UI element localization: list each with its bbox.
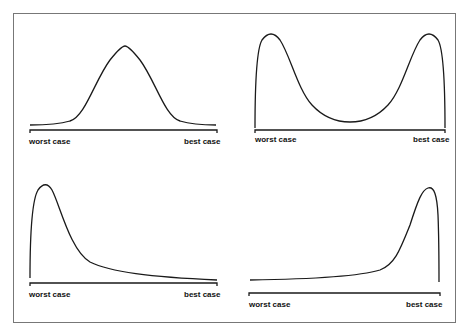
panel-bimodal-curve [255, 34, 445, 133]
axis-bracket [30, 283, 217, 286]
label-best-case: best case [184, 137, 220, 147]
panel-left-skewed-curve [249, 188, 440, 296]
panel-normal-curve [30, 46, 217, 133]
label-worst-case: worst case [29, 290, 70, 300]
label-worst-case: worst case [255, 135, 296, 145]
axis-bracket [255, 130, 445, 133]
axis-bracket [249, 293, 440, 296]
label-best-case: best case [184, 290, 220, 300]
panel-right-skewed-curve [30, 185, 217, 286]
label-best-case: best case [406, 300, 442, 310]
label-best-case: best case [413, 135, 449, 145]
axis-bracket [30, 130, 217, 133]
label-worst-case: worst case [249, 300, 290, 310]
label-worst-case: worst case [29, 137, 70, 147]
distribution-curves [0, 0, 472, 333]
